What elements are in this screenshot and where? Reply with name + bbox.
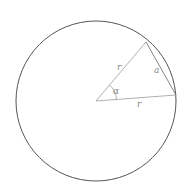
label-radius-lower: r (137, 99, 142, 109)
circle-chord-diagram: r α r a (0, 0, 194, 185)
radius-lower (96, 95, 176, 101)
label-radius-upper: r (117, 62, 122, 72)
label-chord: a (154, 65, 159, 75)
label-angle: α (113, 86, 119, 96)
chord (146, 42, 176, 95)
